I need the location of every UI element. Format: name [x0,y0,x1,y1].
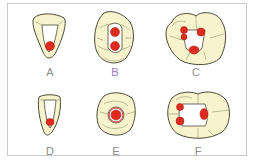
tooth-f [168,92,230,138]
tooth-c-orifice-palatal [189,46,199,54]
tooth-f-orifice-distal [200,109,208,120]
tooth-c [166,13,226,65]
tooth-f-orifice-mb [177,104,184,111]
label-b: B [105,66,125,78]
label-e: E [106,145,126,157]
label-a: A [40,66,60,78]
tooth-c-orifice-db [197,28,205,36]
tooth-b-orifice-buccal [111,28,120,37]
tooth-b [95,12,134,63]
label-d: D [40,145,60,157]
tooth-e [97,93,135,135]
tooth-e-orifice [111,110,121,120]
tooth-c-orifice-mb [181,27,188,34]
tooth-a [33,14,65,58]
tooth-d-orifice [46,119,54,126]
tooth-d [38,95,60,135]
tooth-a-orifice [46,42,55,51]
tooth-f-orifice-ml [176,117,184,125]
tooth-c-orifice-mb2 [181,34,187,40]
teeth-diagram [0,0,254,163]
tooth-b-orifice-palatal [111,42,120,51]
label-c: C [186,66,206,78]
label-f: F [188,145,208,157]
